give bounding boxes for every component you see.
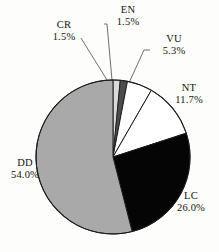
pie-label-cr: CR 1.5% bbox=[44, 19, 84, 43]
pie-label-lc-name: LC bbox=[168, 190, 214, 202]
pie-label-nt-name: NT bbox=[165, 82, 213, 94]
pie-label-cr-name: CR bbox=[44, 19, 84, 31]
pie-label-vu: VU 5.3% bbox=[154, 33, 194, 57]
pie-chart-figure: CR 1.5% EN 1.5% VU 5.3% NT 11.7% LC 26.0… bbox=[0, 0, 219, 252]
pie-label-dd-name: DD bbox=[2, 157, 48, 169]
pie-label-dd-percent: 54.0% bbox=[2, 169, 48, 181]
pie-label-nt: NT 11.7% bbox=[165, 82, 213, 106]
pie-label-cr-percent: 1.5% bbox=[44, 31, 84, 43]
leader-line-en bbox=[104, 24, 112, 80]
pie-label-en-name: EN bbox=[108, 4, 148, 16]
pie-label-lc: LC 26.0% bbox=[168, 190, 214, 214]
pie-label-dd: DD 54.0% bbox=[2, 157, 48, 181]
pie-label-nt-percent: 11.7% bbox=[165, 94, 213, 106]
pie-label-vu-name: VU bbox=[154, 33, 194, 45]
pie-label-vu-percent: 5.3% bbox=[154, 45, 194, 57]
pie-label-lc-percent: 26.0% bbox=[168, 202, 214, 214]
leader-line-cr bbox=[81, 38, 107, 80]
pie-label-en: EN 1.5% bbox=[108, 4, 148, 28]
pie-label-en-percent: 1.5% bbox=[108, 16, 148, 28]
